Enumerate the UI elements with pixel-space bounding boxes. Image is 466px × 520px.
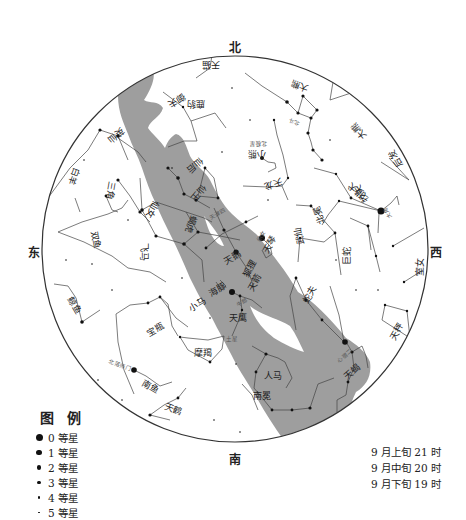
cardinal-west: 西 bbox=[430, 243, 442, 260]
constellation-label: 人马 bbox=[264, 371, 282, 381]
star-magnitude-icon bbox=[34, 496, 44, 498]
constellation-label: 蛇夫 bbox=[300, 284, 319, 305]
cardinal-east: 东 bbox=[28, 243, 40, 260]
legend-item: 0 等星 bbox=[34, 430, 85, 445]
legend-item: 4 等星 bbox=[34, 490, 85, 505]
constellation-label: 摩羯 bbox=[194, 347, 212, 358]
constellation-label: 南鱼 bbox=[140, 377, 161, 396]
legend-label: 2 等星 bbox=[48, 460, 78, 475]
constellation-label: 飞马 bbox=[139, 243, 149, 261]
cardinal-north: 北 bbox=[229, 38, 241, 55]
constellation-label: 鲸鱼 bbox=[66, 295, 85, 316]
constellation-label: 三角 bbox=[104, 180, 118, 200]
observation-times: 9 月上旬 21 时 9 月中旬 20 时 9 月下旬 19 时 bbox=[371, 444, 441, 492]
star-magnitude-icon bbox=[34, 434, 44, 441]
time-note-mid: 9 月中旬 20 时 bbox=[371, 460, 441, 476]
legend-title: 图 例 bbox=[40, 407, 85, 427]
constellation-label: 武仙 bbox=[292, 226, 306, 246]
constellation-label: 巨蛇 bbox=[341, 247, 352, 265]
legend-label: 4 等星 bbox=[48, 490, 78, 505]
star-magnitude-icon bbox=[34, 512, 44, 514]
constellation-label: 小熊 bbox=[248, 149, 266, 160]
constellation-label: 鹿豹 bbox=[187, 99, 205, 110]
time-note-late: 9 月下旬 19 时 bbox=[371, 476, 441, 492]
constellation-label: 室女 bbox=[414, 258, 425, 276]
constellation-label: 天秤 bbox=[388, 321, 406, 342]
star-name-label: 北极星 bbox=[249, 140, 267, 148]
legend-item: 3 等星 bbox=[34, 475, 85, 490]
star-magnitude-icon bbox=[34, 481, 44, 484]
constellation-label: 英仙 bbox=[106, 126, 127, 146]
legend-item: 5 等星 bbox=[34, 505, 85, 520]
constellation-label: 天鹤 bbox=[163, 401, 184, 417]
legend-item: 1 等星 bbox=[34, 445, 85, 460]
legend-label: 1 等星 bbox=[48, 445, 78, 460]
constellation-label: 南冕 bbox=[253, 390, 271, 401]
constellation-label: 宝瓶 bbox=[145, 320, 166, 339]
constellation-label: 双鱼 bbox=[89, 230, 103, 250]
legend-label: 0 等星 bbox=[48, 430, 78, 445]
star-name-label: 北斗 bbox=[287, 116, 301, 128]
constellation-label: 北冕 bbox=[312, 205, 328, 225]
constellation-label: 大熊 bbox=[348, 121, 368, 142]
constellation-label: 大熊 bbox=[289, 78, 310, 94]
star-name-label: 北落师门 bbox=[108, 358, 133, 374]
legend-label: 3 等星 bbox=[48, 475, 78, 490]
star-magnitude-icon bbox=[34, 465, 44, 469]
legend-item: 2 等星 bbox=[34, 460, 85, 475]
star-name-label: 土星 bbox=[226, 335, 238, 342]
star-magnitude-icon bbox=[34, 450, 44, 456]
constellation-label: 天猫 bbox=[202, 60, 220, 71]
legend-rows: 0 等星1 等星2 等星3 等星4 等星5 等星 bbox=[34, 430, 85, 520]
constellation-label: 天龙 bbox=[263, 176, 284, 192]
legend-label: 5 等星 bbox=[48, 505, 78, 520]
cardinal-south: 南 bbox=[229, 450, 241, 467]
time-note-early: 9 月上旬 21 时 bbox=[371, 444, 441, 460]
legend: 图 例 0 等星1 等星2 等星3 等星4 等星5 等星 bbox=[34, 407, 85, 520]
constellation-label: 白羊 bbox=[66, 166, 82, 187]
constellation-label: 天鹰 bbox=[229, 312, 247, 323]
